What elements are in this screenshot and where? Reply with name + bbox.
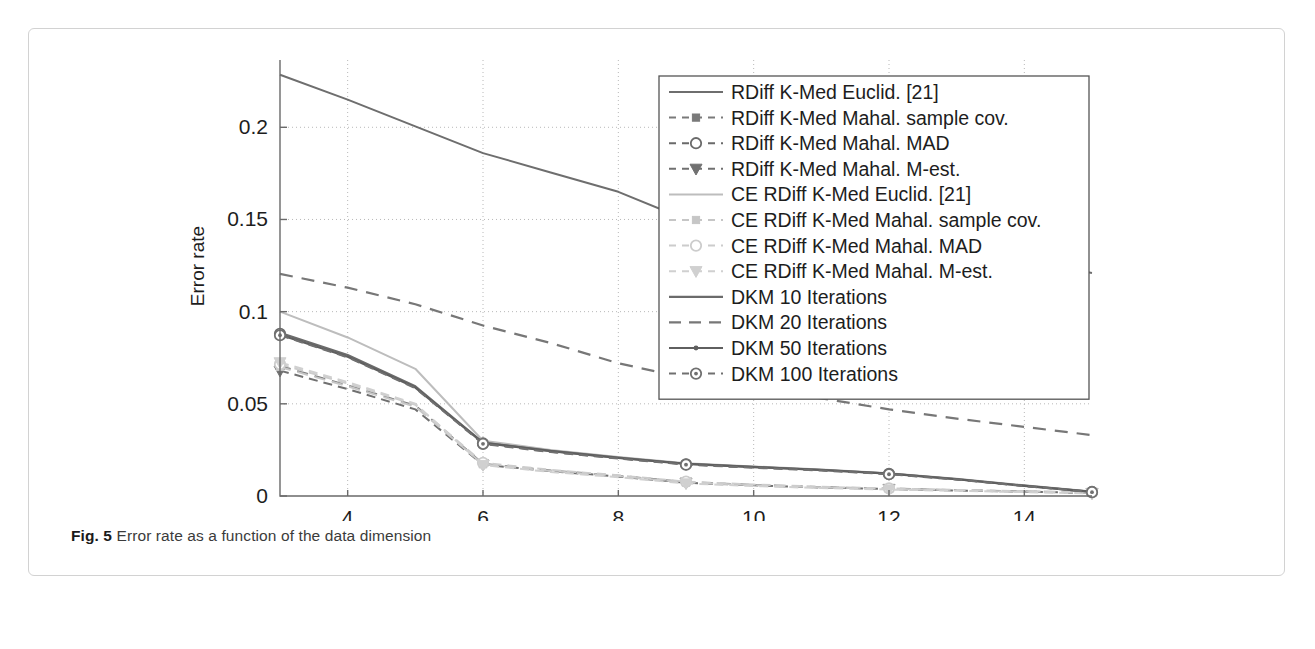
legend-label: DKM 100 Iterations: [731, 363, 898, 385]
data-point-marker: [481, 442, 485, 446]
y-axis-title: Error rate: [187, 226, 208, 306]
x-tick-label: 4: [342, 506, 354, 521]
legend-label: CE RDiff K-Med Mahal. MAD: [731, 235, 982, 257]
legend-label: CE RDiff K-Med Mahal. sample cov.: [731, 209, 1041, 231]
caption-text: Error rate as a function of the data dim…: [117, 527, 432, 544]
legend-label: DKM 50 Iterations: [731, 337, 887, 359]
caption-label: Fig. 5: [71, 527, 112, 544]
data-point-marker: [887, 472, 891, 476]
y-tick-label: 0.15: [227, 207, 268, 230]
y-tick-label: 0: [256, 484, 268, 507]
data-point-marker: [694, 372, 698, 376]
legend-label: RDiff K-Med Mahal. MAD: [731, 132, 950, 154]
legend-label: DKM 10 Iterations: [731, 286, 887, 308]
data-point-marker: [684, 463, 688, 467]
x-tick-label: 14: [1013, 506, 1037, 521]
y-tick-label: 0.1: [239, 300, 268, 323]
data-point-marker: [692, 216, 699, 223]
legend-label: CE RDiff K-Med Mahal. M-est.: [731, 260, 993, 282]
x-tick-label: 8: [612, 506, 624, 521]
legend-label: RDiff K-Med Mahal. M-est.: [731, 158, 960, 180]
legend-label: DKM 20 Iterations: [731, 311, 887, 333]
x-tick-label: 12: [877, 506, 900, 521]
data-point-marker: [691, 240, 701, 250]
figure-card: 46810121400.050.10.150.2 Dimension of da…: [28, 28, 1285, 576]
data-point-marker: [692, 114, 699, 121]
data-point-marker: [694, 346, 699, 351]
y-tick-label: 0.05: [227, 392, 268, 415]
legend[interactable]: RDiff K-Med Euclid. [21]RDiff K-Med Maha…: [659, 76, 1089, 399]
legend-label: CE RDiff K-Med Euclid. [21]: [731, 183, 971, 205]
x-tick-label: 10: [742, 506, 765, 521]
error-rate-line-chart: 46810121400.050.10.150.2 Dimension of da…: [29, 29, 1284, 521]
y-tick-label: 0.2: [239, 115, 268, 138]
legend-label: RDiff K-Med Mahal. sample cov.: [731, 107, 1009, 129]
x-tick-label: 6: [477, 506, 489, 521]
chart-plot-area: 46810121400.050.10.150.2 Dimension of da…: [29, 29, 1284, 521]
figure-caption: Fig. 5 Error rate as a function of the d…: [71, 527, 1221, 545]
data-point-marker: [691, 138, 701, 148]
data-point-marker: [1090, 490, 1094, 494]
legend-label: RDiff K-Med Euclid. [21]: [731, 81, 939, 103]
page-root: 46810121400.050.10.150.2 Dimension of da…: [0, 0, 1315, 649]
